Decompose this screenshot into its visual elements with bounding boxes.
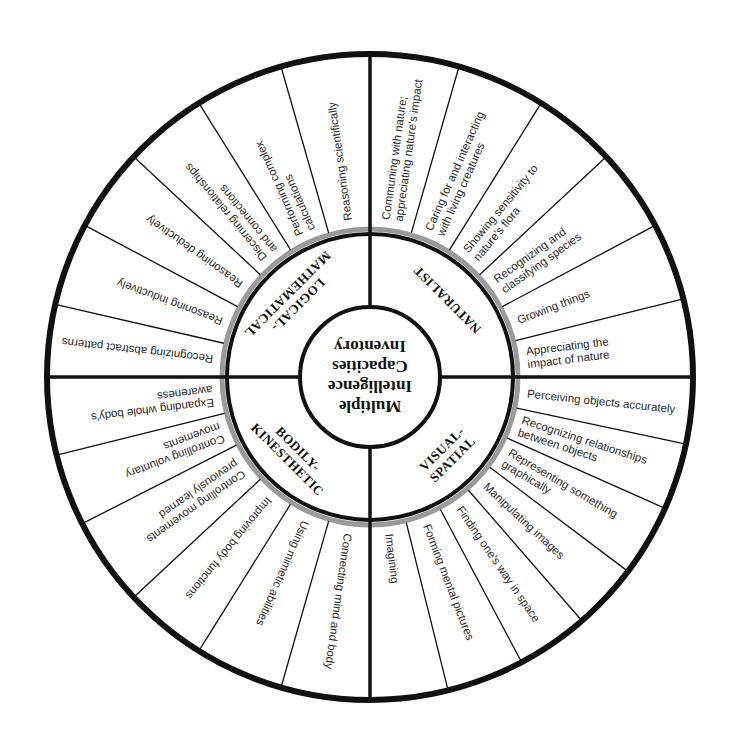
center-title: MultipleIntelligenceCapacitiesInventory <box>328 337 412 416</box>
title-block: MultipleIntelligenceCapacitiesInventory <box>328 337 412 416</box>
title-line: Intelligence <box>328 377 412 396</box>
multiple-intelligence-wheel: Recognizing abstract patternsReasoning i… <box>0 0 740 742</box>
title-line: Multiple <box>338 397 401 416</box>
title-line: Inventory <box>334 337 406 356</box>
inner-circle <box>300 307 440 447</box>
title-line: Capacities <box>332 357 408 376</box>
wheel-structure <box>47 54 693 700</box>
